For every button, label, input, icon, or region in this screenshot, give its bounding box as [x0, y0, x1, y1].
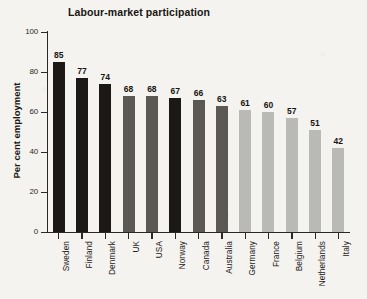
x-tick-denmark — [105, 233, 106, 239]
x-tick-finland — [81, 233, 82, 239]
x-tick-netherlands — [315, 233, 316, 239]
category-label-usa: USA — [155, 241, 164, 258]
bar-denmark — [99, 84, 111, 232]
bar-germany — [239, 110, 251, 232]
bar-australia — [216, 106, 228, 232]
bar-italy — [332, 148, 344, 232]
category-label-france: France — [272, 241, 281, 267]
y-tick-label-60: 60 — [0, 107, 38, 116]
bar-netherlands — [309, 130, 321, 232]
y-tick-label-80: 80 — [0, 67, 38, 76]
bar-canada — [193, 100, 205, 232]
bar-value-belgium: 57 — [278, 106, 306, 116]
bar-belgium — [286, 118, 298, 232]
category-label-uk: UK — [132, 241, 141, 253]
bar-chart: Labour-market participation Per cent emp… — [0, 0, 367, 299]
x-tick-usa — [151, 233, 152, 239]
y-tick-label-100: 100 — [0, 27, 38, 36]
x-tick-uk — [128, 233, 129, 239]
bar-value-denmark: 74 — [91, 72, 119, 82]
y-tick-label-20: 20 — [0, 187, 38, 196]
category-label-italy: Italy — [342, 241, 351, 257]
category-label-netherlands: Netherlands — [318, 241, 327, 286]
category-label-australia: Australia — [225, 241, 234, 274]
bar-sweden — [53, 62, 65, 232]
category-label-finland: Finland — [85, 241, 94, 269]
x-tick-france — [268, 233, 269, 239]
bar-value-netherlands: 51 — [301, 118, 329, 128]
bar-uk — [123, 96, 135, 232]
bar-france — [262, 112, 274, 232]
x-tick-germany — [245, 233, 246, 239]
y-tick-label-40: 40 — [0, 147, 38, 156]
x-tick-australia — [221, 233, 222, 239]
category-label-norway: Norway — [178, 241, 187, 269]
category-label-germany: Germany — [248, 241, 257, 275]
bar-usa — [146, 96, 158, 232]
category-label-belgium: Belgium — [295, 241, 304, 271]
chart-title: Labour-market participation — [68, 6, 210, 18]
x-tick-italy — [338, 233, 339, 239]
bar-value-sweden: 85 — [45, 50, 73, 60]
bar-norway — [169, 98, 181, 232]
y-axis-label: Per cent employment — [11, 66, 22, 196]
bar-finland — [76, 78, 88, 232]
category-label-denmark: Denmark — [108, 241, 117, 275]
x-tick-norway — [175, 233, 176, 239]
category-label-canada: Canada — [202, 241, 211, 270]
x-tick-canada — [198, 233, 199, 239]
x-tick-belgium — [291, 233, 292, 239]
bar-value-italy: 42 — [324, 136, 352, 146]
y-tick-label-0: 0 — [0, 227, 38, 236]
category-label-sweden: Sweden — [62, 241, 71, 271]
x-tick-sweden — [58, 233, 59, 239]
bars-layer: 85777468686766636160575142 — [47, 32, 350, 232]
